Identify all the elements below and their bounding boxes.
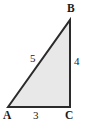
- side-length-label-hypotenuse: 5: [30, 53, 36, 64]
- right-triangle-figure: B A C 5 4 3: [0, 0, 87, 126]
- side-length-label-horizontal-leg: 3: [33, 110, 39, 121]
- triangle-polygon: [8, 20, 70, 107]
- vertex-label-b: B: [67, 3, 75, 15]
- side-length-label-vertical-leg: 4: [74, 56, 80, 67]
- vertex-label-a: A: [3, 110, 11, 122]
- vertex-label-c: C: [65, 110, 73, 122]
